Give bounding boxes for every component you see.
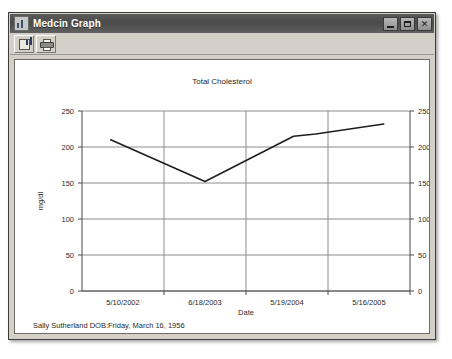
print-tool-button[interactable] — [36, 35, 56, 53]
x-axis-labels: 5/10/20026/18/20035/19/20045/16/2005 — [106, 298, 385, 307]
y-tick-label-right: 250 — [418, 107, 429, 116]
close-button[interactable]: ✕ — [417, 17, 432, 31]
x-axis-title: Date — [238, 308, 254, 317]
y-axis-right-labels: 050100150200250 — [418, 107, 429, 296]
graph-icon — [19, 39, 30, 50]
cholesterol-line-chart: Total Cholesterol 050100150200250 050100… — [15, 60, 429, 333]
maximize-icon — [404, 21, 411, 27]
y-tick-label-right: 50 — [418, 251, 426, 260]
y-tick-label: 0 — [70, 287, 74, 296]
graph-tool-button[interactable] — [14, 35, 34, 53]
y-axis-left-labels: 050100150200250 — [61, 107, 74, 296]
printer-icon-paper-out — [43, 47, 51, 51]
y-tick-label: 100 — [61, 215, 74, 224]
window-graph-icon — [14, 16, 29, 31]
y-tick-label: 150 — [61, 179, 74, 188]
toolbar — [10, 33, 434, 55]
minimize-button[interactable] — [383, 17, 398, 31]
y-tick-label: 200 — [61, 143, 74, 152]
y-tick-label-right: 0 — [418, 287, 422, 296]
patient-info-label: Sally Sutherland DOB:Friday, March 16, 1… — [33, 321, 185, 330]
x-tick-label: 5/16/2005 — [352, 298, 385, 307]
medcin-graph-window: Medcin Graph ✕ Total Cholesterol — [8, 12, 436, 340]
chart-title: Total Cholesterol — [192, 77, 252, 86]
close-icon: ✕ — [418, 18, 431, 30]
maximize-button[interactable] — [400, 17, 415, 31]
graph-icon-bar-1 — [26, 40, 28, 45]
minimize-icon — [387, 26, 394, 28]
graph-icon-bar-2 — [30, 37, 32, 45]
x-tick-label: 6/18/2003 — [188, 298, 221, 307]
cholesterol-data-line — [111, 124, 384, 182]
y-axis-title: mg/dl — [36, 191, 45, 210]
window-title: Medcin Graph — [33, 18, 381, 29]
x-tick-label: 5/19/2004 — [270, 298, 303, 307]
x-tick-label: 5/10/2002 — [106, 298, 139, 307]
y-tick-label-right: 200 — [418, 143, 429, 152]
y-tick-label-right: 100 — [418, 215, 429, 224]
y-tick-label: 250 — [61, 107, 74, 116]
chart-vertical-gridlines — [164, 111, 410, 295]
title-bar[interactable]: Medcin Graph ✕ — [10, 14, 434, 33]
chart-panel: Total Cholesterol 050100150200250 050100… — [14, 59, 430, 334]
y-tick-label: 50 — [66, 251, 74, 260]
y-tick-label-right: 150 — [418, 179, 429, 188]
